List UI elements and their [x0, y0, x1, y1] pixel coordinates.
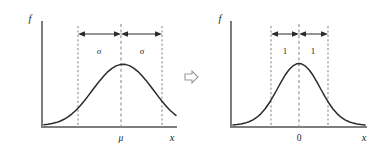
right-one-label-upper: 1 [311, 46, 316, 56]
arrow-head-right [321, 31, 328, 36]
arrow-head-right [292, 31, 299, 36]
right-one-label-lower: 1 [283, 46, 288, 56]
left-normal-curve [44, 64, 176, 125]
arrow-head-right [114, 31, 121, 36]
left-x-axis-label: x [169, 132, 175, 143]
left-sigma-label-upper: σ [140, 46, 145, 56]
right-zero-tick-label: 0 [297, 133, 302, 143]
right-y-axis-label: f [219, 13, 224, 24]
left-y-axis-label: f [29, 13, 34, 24]
general-normal-curve-panel: f x μ σ σ [29, 13, 176, 143]
left-mean-tick-label: μ [118, 133, 124, 143]
arrow-head-left [299, 31, 306, 36]
right-span-arrow-upper [299, 31, 328, 36]
standardization-figure: f x μ σ σ [0, 0, 371, 159]
figure-canvas: f x μ σ σ [0, 0, 371, 159]
left-span-arrow-lower [78, 31, 121, 36]
right-x-axis-label: x [361, 132, 367, 143]
arrow-head-right [155, 31, 162, 36]
right-arrow-icon [185, 71, 198, 83]
arrow-head-left [271, 31, 278, 36]
left-span-arrow-upper [121, 31, 162, 36]
right-span-arrow-lower [271, 31, 299, 36]
arrow-head-left [121, 31, 128, 36]
arrow-head-left [78, 31, 85, 36]
left-sigma-label-lower: σ [97, 46, 102, 56]
standard-normal-curve-panel: f x 0 1 1 [219, 13, 367, 143]
